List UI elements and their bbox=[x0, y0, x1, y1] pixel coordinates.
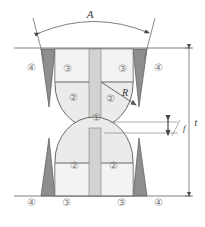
zone-2-upper-right: ② bbox=[106, 93, 115, 104]
zone-4-lower-left: ④ bbox=[27, 197, 36, 208]
zone-2-lower-right: ② bbox=[109, 160, 118, 171]
zone-4-wedge-lower-right bbox=[133, 138, 147, 196]
arc-width-dimension bbox=[39, 22, 149, 34]
figure-container: A R f t ① ② ② ② ② ③ ③ ③ ③ ④ ④ ④ ④ bbox=[0, 0, 205, 227]
zone-3-upper-right: ③ bbox=[118, 63, 127, 74]
zone-3-lower-left: ③ bbox=[62, 197, 71, 208]
zone-4-upper-left: ④ bbox=[27, 62, 36, 73]
gap-tick-slash bbox=[172, 120, 180, 136]
label-arc-width: A bbox=[86, 8, 94, 20]
label-gap: f bbox=[183, 123, 187, 133]
right-angled-line bbox=[144, 18, 155, 60]
lower-body-group bbox=[41, 117, 147, 196]
label-thickness: t bbox=[195, 117, 198, 128]
zone-1-center-core: ① bbox=[92, 112, 101, 123]
zone-4-lower-right: ④ bbox=[154, 197, 163, 208]
zone-2-upper-left: ② bbox=[69, 92, 78, 103]
zone-4-upper-right: ④ bbox=[154, 62, 163, 73]
label-radius: R bbox=[121, 87, 128, 98]
zone-3-upper-left: ③ bbox=[63, 63, 72, 74]
center-column-lower bbox=[89, 128, 101, 196]
left-angled-line bbox=[33, 18, 44, 60]
zone-4-wedge-lower-left bbox=[41, 138, 55, 196]
zone-2-lower-left: ② bbox=[70, 160, 79, 171]
diagram-svg: A R f t ① ② ② ② ② ③ ③ ③ ③ ④ ④ ④ ④ bbox=[0, 0, 205, 227]
zone-3-lower-right: ③ bbox=[117, 197, 126, 208]
